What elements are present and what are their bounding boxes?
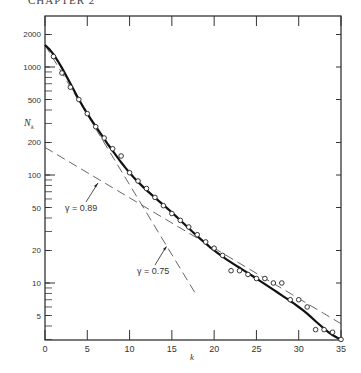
- x-tick-label: 15: [167, 344, 177, 354]
- data-point: [68, 85, 73, 90]
- chart-figure: CHAPTER 2 051015202530355102050100200500…: [0, 0, 361, 373]
- data-point: [263, 276, 268, 281]
- data-point: [136, 179, 141, 184]
- data-point: [220, 253, 225, 258]
- data-point: [330, 330, 335, 335]
- data-point: [296, 297, 301, 302]
- y-tick-label: 1000: [23, 63, 41, 72]
- x-tick-label: 20: [209, 344, 219, 354]
- x-tick-label: 0: [42, 344, 47, 354]
- data-point: [229, 268, 234, 273]
- data-point: [237, 268, 242, 273]
- x-tick-label: 35: [336, 344, 346, 354]
- data-point: [288, 297, 293, 302]
- arrowhead-075: [163, 246, 167, 251]
- data-point: [212, 246, 217, 251]
- y-tick-label: 5: [37, 312, 42, 321]
- x-tick-label: 5: [85, 344, 90, 354]
- y-tick-label: 500: [28, 96, 42, 105]
- data-point: [110, 146, 115, 151]
- data-point: [51, 54, 56, 59]
- data-point: [119, 154, 124, 159]
- plot-area: 05101520253035510205010020050010002000Nk…: [0, 0, 361, 373]
- data-point: [153, 195, 158, 200]
- x-tick-label: 30: [294, 344, 304, 354]
- annotation-gamma-089: γ = 0.89: [65, 203, 97, 213]
- y-tick-label: 100: [28, 171, 42, 180]
- data-point: [60, 71, 65, 76]
- y-axis-label-sub: k: [31, 124, 34, 130]
- x-axis-label: k: [190, 352, 195, 362]
- data-point: [322, 327, 327, 332]
- gamma-089-line: [45, 147, 341, 323]
- data-point: [93, 124, 98, 129]
- data-point: [85, 111, 90, 116]
- fitted-curve: [45, 45, 341, 340]
- x-tick-label: 10: [125, 344, 135, 354]
- data-point: [161, 203, 166, 208]
- data-point: [271, 281, 276, 286]
- data-point: [280, 281, 285, 286]
- data-point: [246, 272, 251, 277]
- data-point: [170, 211, 175, 216]
- data-point: [254, 276, 259, 281]
- plot-frame: [45, 16, 341, 340]
- data-point: [203, 240, 208, 245]
- data-point: [339, 337, 344, 342]
- annotation-gamma-075: γ = 0.75: [137, 266, 169, 276]
- y-tick-label: 50: [32, 204, 41, 213]
- data-point: [127, 170, 132, 175]
- x-tick-label: 25: [251, 344, 261, 354]
- data-point: [313, 327, 318, 332]
- data-point: [305, 305, 310, 310]
- data-point: [186, 225, 191, 230]
- data-point: [178, 218, 183, 223]
- data-point: [144, 186, 149, 191]
- data-point: [195, 232, 200, 237]
- y-tick-label: 200: [28, 138, 42, 147]
- data-point: [102, 136, 107, 141]
- y-tick-label: 2000: [23, 30, 41, 39]
- y-tick-label: 20: [32, 246, 41, 255]
- y-tick-label: 10: [32, 279, 41, 288]
- data-point: [77, 97, 82, 102]
- gamma-075-line: [45, 45, 197, 297]
- arrowhead-089: [94, 183, 98, 188]
